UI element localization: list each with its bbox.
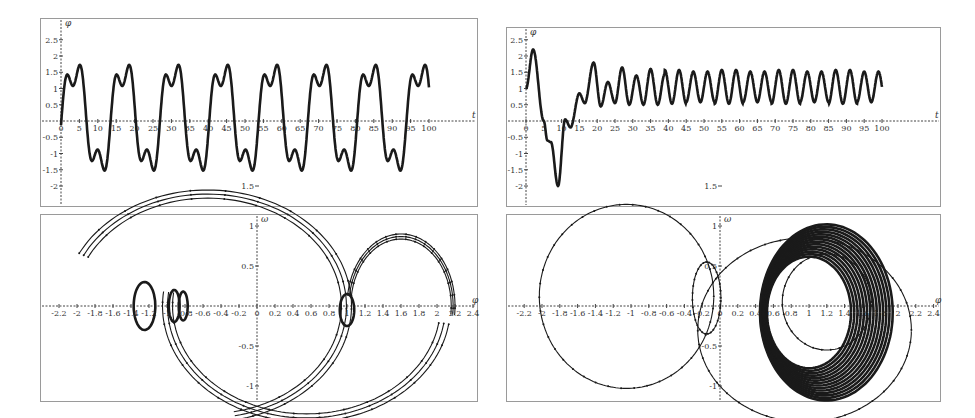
x-tick-label: 1.8 xyxy=(413,309,426,318)
x-axis-label: φ xyxy=(935,295,942,305)
phi-trace-left xyxy=(61,65,429,171)
x-tick-label: -1.4 xyxy=(123,309,138,318)
x-tick-label: 100 xyxy=(874,124,889,133)
x-tick-label: 15 xyxy=(574,124,584,133)
x-tick-label: 1 xyxy=(344,309,349,318)
x-tick-label: 0 xyxy=(254,309,259,318)
y-tick-label: -1 xyxy=(246,382,254,391)
x-tick-label: 1.4 xyxy=(838,309,851,318)
x-tick-label: 25 xyxy=(148,124,158,133)
x-tick-label: 85 xyxy=(824,124,834,133)
y-tick-label: 1 xyxy=(712,222,717,231)
y-tick-label: -0.5 xyxy=(508,133,523,142)
x-tick-label: 45 xyxy=(222,124,232,133)
y-tick-label: 1 xyxy=(53,85,58,94)
x-tick-label: 70 xyxy=(770,124,780,133)
x-tick-label: 0.4 xyxy=(287,309,300,318)
x-tick-label: 80 xyxy=(806,124,816,133)
x-tick-label: -0.4 xyxy=(213,309,228,318)
y-axis-label: φ xyxy=(65,18,72,28)
x-tick-label: -0.2 xyxy=(231,309,246,318)
x-tick-label: 55 xyxy=(717,124,727,133)
y-tick-label: 2 xyxy=(518,52,523,61)
x-tick-label: 90 xyxy=(387,124,397,133)
x-tick-label: 15 xyxy=(111,124,121,133)
y-tick-label: 0.5 xyxy=(241,262,254,271)
x-tick-label: 10 xyxy=(93,124,103,133)
y-tick-label: 1.5 xyxy=(241,182,254,191)
x-tick-label: -0.2 xyxy=(694,309,709,318)
x-tick-label: 0.6 xyxy=(767,309,780,318)
orbit-right-lobe xyxy=(348,234,455,315)
y-tick-label: -0.5 xyxy=(43,133,58,142)
x-tick-label: 50 xyxy=(240,124,250,133)
y-tick-label: -1 xyxy=(50,150,58,159)
y-tick-label: 1.5 xyxy=(45,68,58,77)
x-tick-label: 10 xyxy=(557,124,567,133)
x-tick-label: 95 xyxy=(859,124,869,133)
x-tick-label: 85 xyxy=(369,124,379,133)
x-tick-label: 1.2 xyxy=(820,309,833,318)
x-tick-label: 0 xyxy=(58,124,63,133)
x-tick-label: 35 xyxy=(646,124,656,133)
y-axis-label: ω xyxy=(724,214,732,224)
y-tick-label: -1 xyxy=(515,150,523,159)
y-tick-label: -1.5 xyxy=(508,166,523,175)
x-tick-label: -1.2 xyxy=(605,309,620,318)
y-tick-label: -2 xyxy=(50,182,58,191)
y-tick-label: -1.5 xyxy=(43,166,58,175)
x-tick-label: 1.2 xyxy=(359,309,372,318)
x-tick-label: 20 xyxy=(592,124,602,133)
axes-top-right: 0510152025303540455055606570758085909510… xyxy=(508,27,939,205)
x-tick-label: 0 xyxy=(523,124,528,133)
x-tick-label: 0.2 xyxy=(731,309,744,318)
x-tick-label: 0.8 xyxy=(323,309,336,318)
x-tick-label: 45 xyxy=(681,124,691,133)
x-tick-label: 90 xyxy=(841,124,851,133)
x-tick-label: 0.2 xyxy=(269,309,282,318)
x-tick-label: 30 xyxy=(628,124,638,133)
x-tick-label: -1.8 xyxy=(552,309,567,318)
x-tick-label: 65 xyxy=(295,124,305,133)
x-tick-label: 40 xyxy=(663,124,673,133)
x-tick-label: 1 xyxy=(806,309,811,318)
y-tick-label: 2.5 xyxy=(510,36,523,45)
x-tick-label: 0.8 xyxy=(785,309,798,318)
x-tick-label: -1.6 xyxy=(105,309,120,318)
x-tick-label: 2.4 xyxy=(467,309,480,318)
y-tick-label: 0.5 xyxy=(510,101,523,110)
y-axis-label: φ xyxy=(530,27,537,37)
x-tick-label: 2 xyxy=(895,309,900,318)
y-axis-label: ω xyxy=(261,214,269,224)
x-tick-label: -0.6 xyxy=(659,309,674,318)
y-tick-label: -2 xyxy=(515,182,523,191)
x-tick-label: 2 xyxy=(434,309,439,318)
x-tick-label: -0.4 xyxy=(677,309,692,318)
y-tick-label: -1 xyxy=(709,382,717,391)
x-tick-label: 1.6 xyxy=(395,309,408,318)
x-tick-label: -1.4 xyxy=(588,309,603,318)
x-tick-label: 0.6 xyxy=(305,309,318,318)
y-tick-label: 2.5 xyxy=(45,36,58,45)
x-tick-label: 100 xyxy=(421,124,436,133)
y-tick-label: 1 xyxy=(249,222,254,231)
y-tick-label: 2 xyxy=(53,52,58,61)
x-tick-label: 25 xyxy=(610,124,620,133)
transient-loop xyxy=(539,204,714,388)
x-tick-label: 50 xyxy=(699,124,709,133)
x-tick-label: 70 xyxy=(314,124,324,133)
x-tick-label: 30 xyxy=(166,124,176,133)
x-tick-label: -2 xyxy=(73,309,81,318)
y-tick-label: -0.5 xyxy=(702,342,717,351)
x-tick-label: 2.2 xyxy=(909,309,922,318)
x-tick-label: 5 xyxy=(77,124,82,133)
x-tick-label: 1.4 xyxy=(377,309,390,318)
x-axis-label: t xyxy=(472,110,476,120)
x-tick-label: 55 xyxy=(258,124,268,133)
x-tick-label: 2.4 xyxy=(927,309,940,318)
y-tick-label: 0.5 xyxy=(45,101,58,110)
y-tick-label: 1 xyxy=(518,85,523,94)
orbit-right-lobe xyxy=(350,237,454,315)
x-tick-label: -2.2 xyxy=(51,309,66,318)
phi-trace-right xyxy=(526,50,882,187)
